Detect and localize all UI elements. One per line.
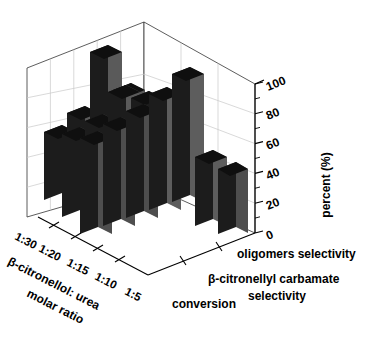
z-axis-title: percent (%) (319, 152, 333, 217)
y-category-label-carbamate-line2: selectivity (248, 289, 306, 303)
three-d-bar-chart-svg: 0 20 40 60 80 100 percent (%) 1:30 1:20 … (0, 0, 379, 357)
bar-foreground-right-b (218, 162, 248, 234)
chart-figure: 0 20 40 60 80 100 percent (%) 1:30 1:20 … (0, 0, 379, 357)
y-category-label-oligomers: oligomers selectivity (237, 247, 356, 261)
y-category-label-conversion: conversion (172, 297, 236, 311)
y-category-label-carbamate-line1: β-citronellyl carbamate (208, 272, 340, 286)
